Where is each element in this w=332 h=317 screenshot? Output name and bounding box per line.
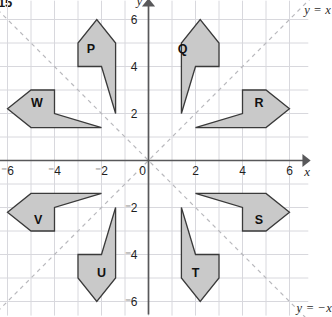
shape-label-p: P [87, 42, 95, 56]
plot-shape-v [8, 193, 102, 231]
y-tick-label: ⁻4 [125, 248, 138, 262]
shape-label-r: R [254, 96, 263, 110]
grid-lines-group [0, 1, 308, 316]
shape-label-v: V [34, 213, 43, 227]
y-tick-label: 6 [131, 13, 138, 27]
plot-shape-w [8, 90, 102, 128]
diagonal-lines-group [0, 0, 311, 317]
plot-shape-q [181, 20, 219, 114]
axes-group [0, 0, 311, 314]
y-axis-label: y [135, 0, 143, 8]
x-tick-label: 6 [286, 164, 293, 178]
diagonal-line-y-equals-negative-x [0, 0, 311, 317]
x-tick-label: ⁻6 [1, 164, 14, 178]
y-tick-label: ⁻6 [125, 295, 138, 309]
shape-label-s: S [255, 213, 263, 227]
y-tick-label: 4 [131, 60, 138, 74]
y-axis-arrowhead [142, 0, 155, 7]
shape-label-q: Q [178, 42, 188, 56]
tick-labels-group: ⁻6⁻4⁻2246642⁻2⁻4⁻60yx [1, 0, 310, 309]
y-tick-label: ⁻2 [125, 201, 138, 215]
x-tick-label: ⁻2 [95, 164, 108, 178]
plot-shape-p [78, 20, 116, 114]
plot-shape-u [78, 208, 116, 302]
x-axis-label: x [303, 164, 310, 179]
plot-shape-s [196, 193, 290, 231]
plot-shape-r [196, 90, 290, 128]
x-tick-label: ⁻4 [48, 164, 61, 178]
x-tick-label: 2 [192, 164, 199, 178]
line-label-y-equals-x: y = x [304, 3, 331, 18]
diagonal-line-y-equals-x [0, 0, 311, 317]
origin-label: 0 [139, 164, 146, 178]
shape-label-w: W [31, 96, 43, 110]
y-tick-label: 2 [131, 107, 138, 121]
x-tick-label: 4 [239, 164, 246, 178]
plot-shape-t [181, 208, 219, 302]
shape-label-t: T [192, 266, 200, 280]
line-label-y-equals-negative-x: y = −x [297, 301, 332, 316]
shape-label-u: U [97, 266, 106, 280]
